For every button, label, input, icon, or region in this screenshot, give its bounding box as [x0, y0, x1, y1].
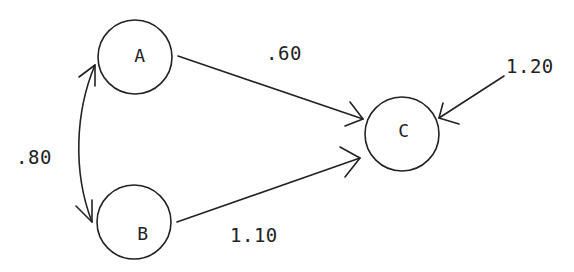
edge-label-bc: 1.10 — [230, 224, 278, 246]
edge-a-b-correlation — [76, 65, 95, 222]
path-diagram-canvas — [0, 0, 574, 272]
edge-b-to-c — [177, 147, 360, 222]
edge-label-ab: .80 — [16, 146, 52, 168]
node-b-circle — [97, 185, 171, 259]
edge-external-to-c — [439, 76, 504, 124]
node-a-label: A — [125, 45, 155, 66]
arrowhead-icon — [76, 200, 92, 222]
edge-label-ac: .60 — [266, 42, 302, 64]
node-b-label: B — [128, 223, 158, 244]
node-c-label: C — [389, 120, 419, 141]
edge-a-to-c — [178, 56, 363, 126]
edge-label-ext-c: 1.20 — [506, 55, 554, 77]
arrowhead-icon — [79, 65, 95, 86]
